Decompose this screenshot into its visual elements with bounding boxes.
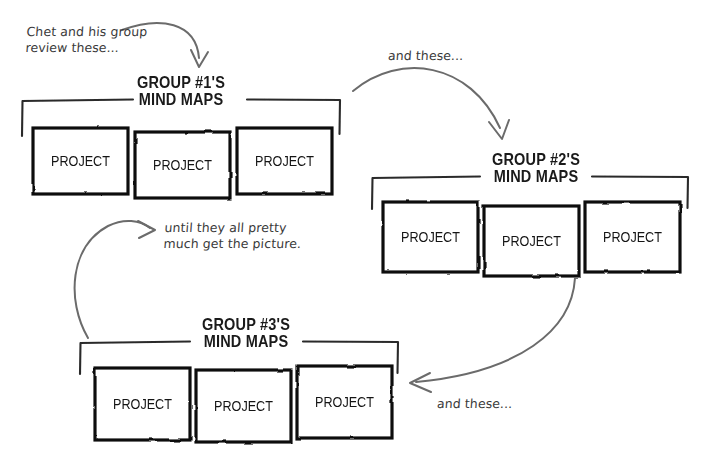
diagram-artwork (0, 0, 708, 462)
arrow-group3-to-group1 (75, 221, 155, 338)
group-3-boxes (95, 366, 392, 442)
group-1-boxes (33, 128, 332, 198)
arrow-start-to-group1 (122, 23, 208, 67)
diagram-canvas: GROUP #1'S MIND MAPS PROJECT PROJECT PRO… (0, 0, 708, 462)
group-2-boxes (383, 202, 680, 276)
arrow-group2-to-group3 (410, 278, 575, 392)
arrow-group1-to-group2 (353, 68, 509, 139)
